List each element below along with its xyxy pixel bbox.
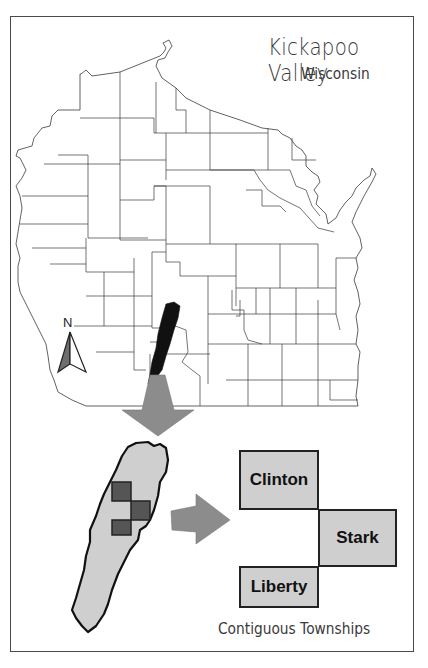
township-label: Stark <box>336 528 379 548</box>
inset-stark <box>131 501 150 520</box>
inset-liberty <box>112 520 131 535</box>
township-liberty: Liberty <box>239 566 319 608</box>
township-stark: Stark <box>318 509 397 567</box>
right-arrow-icon <box>171 494 230 544</box>
township-label: Clinton <box>250 470 309 490</box>
inset-clinton <box>112 482 131 501</box>
down-arrow-icon <box>122 375 194 436</box>
wisconsin-map <box>0 0 428 668</box>
north-arrow-icon <box>58 332 86 372</box>
north-label: N <box>63 315 72 330</box>
map-subtitle: Wisconsin <box>301 64 370 83</box>
footer-label: Contiguous Townships <box>218 619 370 638</box>
township-clinton: Clinton <box>239 450 319 510</box>
watershed-detail <box>72 442 168 632</box>
watershed-on-state <box>148 302 180 384</box>
township-label: Liberty <box>251 577 308 597</box>
